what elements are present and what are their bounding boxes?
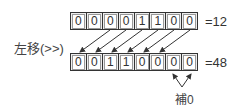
pad-arrow-icon — [173, 74, 191, 87]
shift-arrows — [0, 0, 244, 109]
padding-label: 補0 — [175, 90, 194, 107]
shift-arrow-icon — [80, 30, 190, 52]
